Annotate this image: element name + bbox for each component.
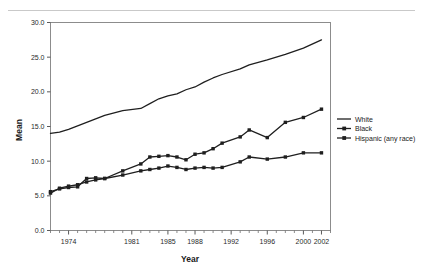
series-marker [320,151,323,154]
series-marker [175,166,178,169]
line-chart: 0.05.010.015.020.025.030.0 1974198119851… [0,0,423,275]
x-tick-label: 1981 [124,238,140,245]
series-marker [248,128,251,131]
series-marker [184,168,187,171]
x-axis-title: Year [181,254,200,264]
series-marker [139,162,142,165]
series-line-white [51,40,322,134]
series-marker [166,154,169,157]
series-marker [175,155,178,158]
series-marker [157,166,160,169]
series-marker [121,169,124,172]
series-marker [94,176,97,179]
y-axis-title: Mean [14,119,24,141]
series-marker [85,177,88,180]
y-axis-ticks: 0.05.010.015.020.025.030.0 [31,19,51,234]
series-marker [67,186,70,189]
series-marker [148,168,151,171]
series-marker [76,185,79,188]
series-marker [284,155,287,158]
series-marker [139,169,142,172]
data-series-group [49,40,323,195]
chart-legend: WhiteBlackHispanic (any race) [337,116,415,143]
series-marker [266,157,269,160]
series-marker [148,155,151,158]
x-tick-label: 2002 [314,238,330,245]
x-tick-label: 1996 [259,238,275,245]
series-marker [266,136,269,139]
series-marker [193,153,196,156]
y-tick-label: 25.0 [31,54,45,61]
series-marker [193,166,196,169]
series-marker [58,187,61,190]
series-marker [248,155,251,158]
series-marker [302,151,305,154]
series-marker [220,141,223,144]
series-marker [202,151,205,154]
series-marker [284,121,287,124]
x-tick-label: 1985 [160,238,176,245]
x-tick-label: 1992 [223,238,239,245]
legend-label-black: Black [355,125,373,132]
series-marker [302,116,305,119]
series-marker [166,164,169,167]
series-marker [85,180,88,183]
series-marker [238,160,241,163]
series-marker [103,177,106,180]
y-tick-label: 10.0 [31,158,45,165]
legend-label-white: White [355,116,373,123]
x-tick-label: 1988 [187,238,203,245]
series-marker [220,166,223,169]
series-marker [121,173,124,176]
x-tick-label: 1974 [61,238,77,245]
series-marker [184,158,187,161]
chart-figure: 0.05.010.015.020.025.030.0 1974198119851… [0,0,423,275]
series-marker [49,190,52,193]
series-marker [211,147,214,150]
y-tick-label: 30.0 [31,19,45,26]
series-marker [157,155,160,158]
series-marker [202,166,205,169]
series-marker [211,166,214,169]
series-line-black [51,109,322,193]
x-axis-ticks: 19741981198519881992199620002002 [61,231,330,245]
y-tick-label: 0.0 [35,227,45,234]
y-tick-label: 20.0 [31,88,45,95]
legend-label-hispanic: Hispanic (any race) [355,135,415,143]
series-marker [238,135,241,138]
y-tick-label: 15.0 [31,123,45,130]
y-tick-label: 5.0 [35,192,45,199]
series-marker [320,107,323,110]
x-tick-label: 2000 [296,238,312,245]
